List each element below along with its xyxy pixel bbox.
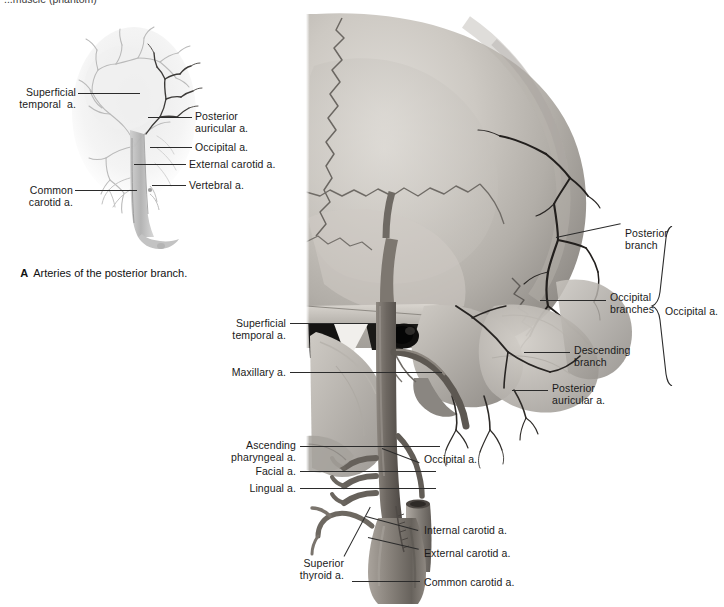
- label-b-common-carotid: Common carotid a.: [424, 576, 514, 588]
- leader-b-facial: [300, 471, 436, 472]
- label-b-ascending-pharyngeal: Ascending pharyngeal a.: [180, 439, 296, 464]
- label-b-facial: Facial a.: [180, 465, 296, 477]
- leader-external-carotid-a: [134, 164, 186, 165]
- figure-a-angiogram: [62, 18, 212, 250]
- label-b-occipital-lower: Occipital a.: [424, 453, 477, 465]
- leader-common-carotid-a: [75, 190, 137, 191]
- caption-letter: A: [20, 267, 28, 279]
- label-b-occipital-artery: Occipital a.: [665, 305, 718, 317]
- caption-text: Arteries of the posterior branch.: [33, 267, 187, 279]
- leader-occipital-a: [150, 147, 192, 148]
- label-vertebral-a: Vertebral a.: [189, 179, 244, 191]
- label-b-posterior-branch: Posterior branch: [625, 227, 668, 252]
- label-b-superficial-temporal: Superficial temporal a.: [198, 317, 286, 342]
- leader-b-maxillary: [290, 372, 442, 373]
- figure-page: ...muscle (phantom): [0, 0, 724, 607]
- label-posterior-auricular-a: Posterior auricular a.: [195, 110, 248, 135]
- top-cut-text: ...muscle (phantom): [4, 0, 97, 5]
- label-b-superior-thyroid: Superior thyroid a.: [292, 557, 344, 582]
- label-b-occipital-branches: Occipital branches: [610, 291, 654, 316]
- label-b-maxillary: Maxillary a.: [198, 366, 286, 378]
- label-occipital-a: Occipital a.: [195, 141, 248, 153]
- label-common-carotid-a: Common carotid a.: [0, 184, 73, 209]
- leader-posterior-auricular-a: [148, 117, 192, 118]
- leader-b-common-carotid: [352, 581, 420, 582]
- leader-b-descending-branch: [524, 352, 570, 353]
- leader-b-ascending-pharyngeal: [300, 446, 440, 447]
- label-b-external-carotid: External carotid a.: [424, 547, 511, 559]
- label-b-internal-carotid: Internal carotid a.: [424, 524, 507, 536]
- label-external-carotid-a: External carotid a.: [189, 158, 276, 170]
- label-superficial-temporal-a: Superficial temporal a.: [0, 86, 76, 111]
- figure-a-caption: AArteries of the posterior branch.: [8, 255, 187, 291]
- label-b-lingual: Lingual a.: [180, 482, 296, 494]
- leader-vertebral-a: [152, 185, 186, 186]
- leader-b-posterior-auricular: [512, 390, 548, 391]
- leader-b-occipital-branches: [540, 300, 606, 301]
- leader-b-lingual: [300, 488, 436, 489]
- label-b-posterior-auricular: Posterior auricular a.: [552, 382, 605, 407]
- label-b-descending-branch: Descending branch: [574, 344, 630, 369]
- leader-superficial-temporal-a: [78, 93, 140, 94]
- leader-b-superficial-temporal: [290, 323, 376, 324]
